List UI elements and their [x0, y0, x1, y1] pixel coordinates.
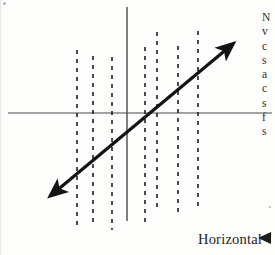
trend-line-arrow: [55, 48, 228, 192]
margin-text-line: a: [262, 67, 275, 81]
scan-speck: [3, 2, 6, 5]
margin-text-line: N: [262, 10, 275, 24]
margin-text-line: v: [262, 24, 275, 38]
margin-text-line: s: [262, 124, 275, 138]
margin-text-line: s: [262, 96, 275, 110]
margin-text-line: c: [262, 39, 275, 53]
coordinate-plane-figure: [0, 0, 275, 255]
margin-text-line: f: [262, 110, 275, 124]
margin-text-line: s: [262, 53, 275, 67]
scanned-figure-page: Nvcsacsfs Horizontal: [0, 0, 275, 255]
dashed-vertical-lines: [77, 31, 198, 230]
margin-body-text: Nvcsacsfs: [262, 10, 275, 139]
scan-speck: [269, 206, 271, 208]
margin-text-line: c: [262, 81, 275, 95]
horizontal-axis-caption: Horizontal: [198, 231, 262, 248]
left-triangle-pointer-icon: [258, 232, 271, 244]
